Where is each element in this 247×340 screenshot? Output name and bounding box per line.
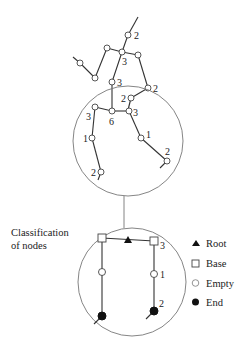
node-label: 2 [134, 30, 139, 41]
node-label: 2 [159, 298, 164, 309]
end-node [98, 312, 106, 320]
tree-node [104, 45, 110, 51]
node-classification-diagram: 2 3 3 2 2 3 6 3 1 1 2 2 [0, 0, 247, 340]
tree-node [128, 95, 134, 101]
end-circle-icon [192, 299, 199, 306]
caption-line-2: of nodes [11, 240, 47, 251]
node-label: 2 [121, 93, 126, 104]
node-label: 2 [91, 167, 96, 178]
tree-node [135, 52, 141, 58]
end-node [150, 307, 158, 315]
magnified-region-circle: 2 3 6 3 1 1 2 2 [73, 86, 183, 196]
empty-node [99, 269, 106, 276]
legend-label-base: Base [206, 258, 227, 269]
base-node [150, 237, 158, 245]
tree-node [109, 108, 115, 114]
node-label: 2 [165, 146, 170, 157]
upper-branch-tree: 2 3 3 2 [73, 17, 158, 111]
empty-node [151, 271, 158, 278]
base-square-icon [192, 260, 199, 267]
tree-node [126, 108, 132, 114]
tree-node [125, 32, 131, 38]
node-label: 3 [160, 240, 165, 251]
node-label: 3 [122, 56, 127, 67]
node-label: 3 [86, 111, 91, 122]
node-label: 1 [83, 133, 88, 144]
classification-circle: 3 1 2 [78, 228, 186, 336]
node-label: 1 [146, 129, 151, 140]
empty-circle-icon [192, 280, 199, 287]
tree-node [109, 79, 115, 85]
node-label: 1 [160, 269, 165, 280]
tree-node [92, 75, 98, 81]
legend: Root Base Empty End [192, 238, 235, 308]
tree-node [89, 135, 95, 141]
legend-label-end: End [206, 297, 224, 308]
root-triangle-icon [192, 240, 200, 246]
base-node [98, 234, 106, 242]
tree-node [92, 104, 98, 110]
node-label: 6 [109, 116, 114, 127]
legend-label-root: Root [206, 238, 227, 249]
legend-label-empty: Empty [206, 278, 235, 289]
node-label: 3 [133, 107, 138, 118]
tree-node [164, 158, 170, 164]
tree-node [119, 49, 125, 55]
tree-node [77, 60, 83, 66]
tree-node [98, 169, 104, 175]
caption-line-1: Classification [11, 227, 69, 238]
tree-node [138, 135, 144, 141]
